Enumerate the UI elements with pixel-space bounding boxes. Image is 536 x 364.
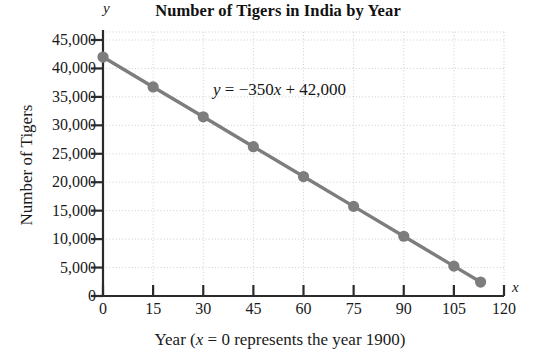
data-point-marker [475, 276, 486, 287]
plot-area [0, 0, 536, 364]
y-axis-ticks [91, 40, 103, 296]
chart-figure: Number of Tigers in India by Year Number… [0, 0, 536, 364]
data-point-marker [248, 141, 259, 152]
x-axis-ticks [103, 285, 504, 296]
data-point-marker [398, 231, 409, 242]
data-point-marker [148, 81, 159, 92]
equation-annotation: y = −350x + 42,000 [213, 80, 346, 100]
data-point-marker [97, 51, 108, 62]
data-point-marker [448, 261, 459, 272]
data-point-marker [198, 111, 209, 122]
vertical-gridlines [153, 32, 504, 296]
equation-rhs-b: + 42,000 [281, 80, 346, 99]
equation-lhs: y [213, 80, 221, 99]
data-point-marker [298, 171, 309, 182]
equation-rhs-a: = −350 [221, 80, 274, 99]
data-point-marker [348, 201, 359, 212]
horizontal-gridlines [103, 32, 506, 268]
